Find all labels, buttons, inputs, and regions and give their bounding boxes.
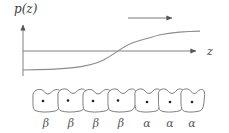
cell-nucleus-dot bbox=[67, 99, 70, 102]
cell-beta-1 bbox=[33, 89, 62, 112]
cell-alpha-2 bbox=[158, 89, 184, 112]
cell-outline bbox=[135, 89, 161, 112]
cell-fate-label-4: β bbox=[117, 117, 124, 130]
cell-fate-labels: β β β β α α α bbox=[42, 117, 196, 130]
cell-nucleus-dot bbox=[169, 101, 172, 104]
cell-beta-2 bbox=[58, 89, 87, 112]
figure-canvas: p(z) z bbox=[0, 0, 229, 133]
cell-beta-4 bbox=[108, 89, 137, 112]
cell-nucleus-dot bbox=[92, 100, 95, 103]
cell-outline bbox=[58, 89, 87, 112]
x-axis-label: z bbox=[206, 45, 213, 58]
y-axis-label: p(z) bbox=[14, 2, 38, 16]
cell-outline bbox=[181, 89, 205, 112]
cell-nucleus-dot bbox=[146, 101, 149, 104]
cell-alpha-1 bbox=[135, 89, 161, 112]
cell-fate-label-6: α bbox=[166, 117, 174, 130]
cell-fate-label-3: β bbox=[92, 117, 99, 130]
cell-outline bbox=[158, 89, 184, 112]
cell-outline bbox=[108, 89, 137, 112]
cell-outline bbox=[33, 89, 62, 112]
cell-outline bbox=[83, 89, 112, 112]
cell-nucleus-dot bbox=[191, 101, 194, 104]
cell-alpha-3 bbox=[181, 89, 205, 112]
morphogen-gradient-figure: p(z) z bbox=[0, 0, 229, 133]
cell-fate-label-7: α bbox=[188, 117, 196, 130]
cell-row bbox=[33, 89, 205, 112]
cell-fate-label-5: α bbox=[143, 117, 151, 130]
cell-nucleus-dot bbox=[117, 99, 120, 102]
cell-nucleus-dot bbox=[42, 100, 45, 103]
cell-beta-3 bbox=[83, 89, 112, 112]
cell-fate-label-1: β bbox=[42, 117, 49, 130]
cell-fate-label-2: β bbox=[67, 117, 74, 130]
